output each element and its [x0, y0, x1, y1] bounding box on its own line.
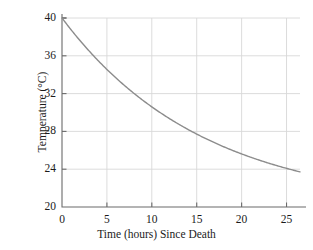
temperature-curve	[62, 18, 300, 172]
y-axis-title: Temperature (°C)	[36, 72, 48, 153]
x-tick-label: 15	[191, 214, 203, 226]
cooling-curve-figure: 202428323640 0510152025 Temperature (°C)…	[0, 0, 313, 250]
x-tick-label: 20	[236, 214, 248, 226]
x-tick-label: 0	[59, 214, 65, 226]
x-axis-title: Time (hours) Since Death	[0, 228, 313, 240]
y-tick-label: 20	[30, 201, 56, 213]
y-tick-label: 24	[30, 163, 56, 175]
x-tick-label: 5	[104, 214, 110, 226]
y-tick-label: 36	[30, 50, 56, 62]
x-tick-label: 10	[146, 214, 158, 226]
x-tick-label: 25	[281, 214, 293, 226]
axis-lines	[62, 14, 306, 207]
y-tick-label: 40	[30, 12, 56, 24]
tick-marks	[62, 18, 287, 207]
grid-lines	[62, 18, 300, 207]
